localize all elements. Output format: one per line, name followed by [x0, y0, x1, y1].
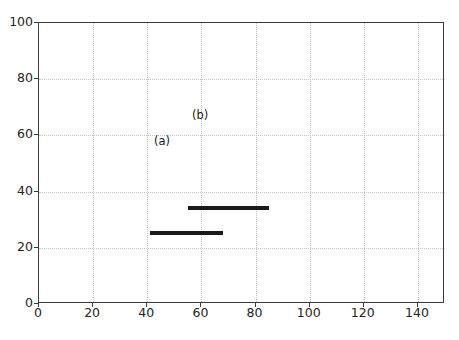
x-tick-label: 0 [34, 307, 42, 320]
gridline-vertical [93, 23, 94, 302]
x-tick-label: 80 [247, 307, 263, 320]
y-tick-label: 80 [17, 72, 33, 85]
y-tick-mark [34, 191, 38, 192]
gridline-vertical [201, 23, 202, 302]
x-tick-label: 140 [405, 307, 429, 320]
gridline-horizontal [39, 135, 443, 136]
y-tick-mark [34, 247, 38, 248]
y-tick-mark [34, 303, 38, 304]
gridline-vertical [147, 23, 148, 302]
x-tick-label: 60 [192, 307, 208, 320]
data-box-b [188, 206, 269, 210]
y-tick-mark [34, 78, 38, 79]
x-tick-label: 120 [351, 307, 375, 320]
gridline-horizontal [39, 248, 443, 249]
x-tick-label: 20 [84, 307, 100, 320]
gridline-horizontal [39, 192, 443, 193]
y-tick-label: 60 [17, 128, 33, 141]
data-box-label-b: (b) [192, 110, 208, 122]
gridline-vertical [418, 23, 419, 302]
y-tick-label: 40 [17, 184, 33, 197]
y-tick-label: 20 [17, 241, 33, 254]
gridline-vertical [256, 23, 257, 302]
y-tick-label: 100 [9, 16, 33, 29]
y-tick-mark [34, 134, 38, 135]
y-tick-label: 0 [25, 297, 33, 310]
x-tick-label: 100 [297, 307, 321, 320]
data-box-a [150, 231, 223, 235]
gridline-vertical [310, 23, 311, 302]
x-tick-label: 40 [138, 307, 154, 320]
plot-area: (a)(b) [38, 22, 444, 303]
gridline-vertical [364, 23, 365, 302]
chart-figure: (a)(b) 020406080100120140 020406080100 [0, 0, 459, 340]
gridline-horizontal [39, 79, 443, 80]
data-box-label-a: (a) [154, 136, 170, 148]
y-tick-mark [34, 22, 38, 23]
